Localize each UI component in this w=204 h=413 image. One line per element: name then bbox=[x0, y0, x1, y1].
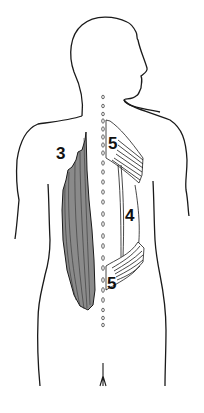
label-4: 4 bbox=[125, 206, 135, 225]
label-5-upper: 5 bbox=[108, 134, 117, 153]
left-torso-outline bbox=[38, 184, 50, 386]
right-torso-outline bbox=[153, 181, 166, 386]
head-outline bbox=[71, 17, 160, 116]
label-5-lower: 5 bbox=[107, 274, 116, 293]
muscle-3 bbox=[62, 132, 95, 310]
label-3: 3 bbox=[56, 144, 65, 163]
gluteal-cleft bbox=[100, 363, 106, 386]
spine-vertebrae bbox=[102, 95, 105, 327]
anatomy-diagram: 3 5 4 5 bbox=[0, 0, 204, 413]
